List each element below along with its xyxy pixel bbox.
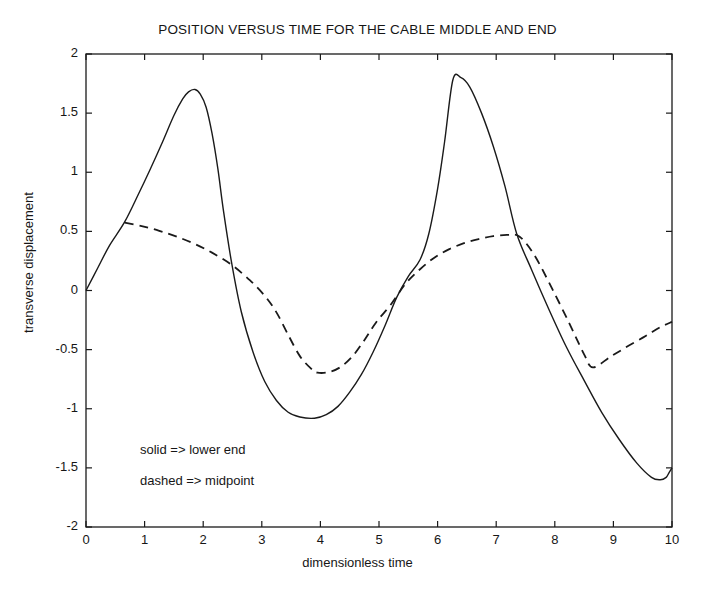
series-line-lower-end xyxy=(86,74,672,479)
legend-entry-dashed: dashed => midpoint xyxy=(140,473,254,488)
legend-entry-solid: solid => lower end xyxy=(140,442,246,457)
series-line-midpoint xyxy=(125,223,672,373)
plot-canvas xyxy=(0,0,715,595)
chart-figure: POSITION VERSUS TIME FOR THE CABLE MIDDL… xyxy=(0,0,715,595)
data-series-layer xyxy=(86,74,672,479)
